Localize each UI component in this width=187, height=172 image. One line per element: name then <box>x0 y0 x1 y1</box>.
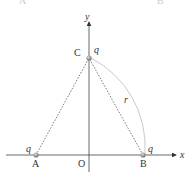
charge-b <box>140 152 145 157</box>
charge-c-label: q <box>94 44 99 55</box>
charge-c <box>86 55 91 60</box>
charge-diagram: A B x y O r C q q A q B <box>0 0 187 172</box>
residual-label-a: A <box>19 0 27 6</box>
y-axis-label: y <box>84 11 90 22</box>
point-b-label: B <box>140 158 147 169</box>
charge-a-label: q <box>26 143 31 154</box>
origin-label: O <box>78 158 85 169</box>
line-bc <box>89 58 143 155</box>
point-a-label: A <box>32 158 40 169</box>
x-axis-label: x <box>179 149 185 160</box>
charge-b-label: q <box>148 143 153 154</box>
arc-r-label: r <box>124 94 128 105</box>
residual-label-b: B <box>157 0 164 6</box>
point-c-label: C <box>74 47 81 58</box>
arc-r <box>91 58 145 153</box>
line-ac <box>36 58 89 155</box>
charge-a <box>33 152 38 157</box>
